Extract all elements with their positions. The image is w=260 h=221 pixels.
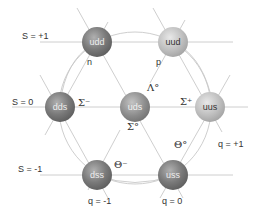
quark-content-uus: uus	[203, 102, 218, 112]
quark-content-uds: uds	[128, 102, 143, 112]
particle-name-p: p	[156, 58, 161, 67]
particle-sphere-udd: udd	[82, 27, 112, 57]
particle-name-sigma-plus: Σ⁺	[180, 97, 192, 107]
particle-name-lambda-0: Λ°	[147, 83, 159, 93]
particle-sphere-dss: dss	[82, 160, 112, 190]
particle-name-sigma-0: Σ°	[127, 122, 139, 132]
particle-sphere-uus: uus	[195, 92, 225, 122]
particle-sphere-uss: uss	[158, 160, 188, 190]
charge-label-plus1: q = +1	[218, 140, 244, 149]
quark-content-uud: uud	[165, 37, 180, 47]
quark-content-dss: dss	[90, 170, 104, 180]
particle-sphere-uds: uds	[120, 92, 150, 122]
particle-sphere-dds: dds	[45, 92, 75, 122]
strangeness-label-minus1: S = -1	[18, 165, 42, 174]
particle-name-sigma-minus: Σ⁻	[78, 98, 90, 108]
baryon-octet-diagram: S = +1 S = 0 S = -1 q = -1 q = 0 q = +1 …	[0, 0, 260, 221]
quark-content-uss: uss	[166, 170, 180, 180]
charge-label-minus1: q = -1	[88, 197, 111, 206]
quark-content-dds: dds	[53, 102, 68, 112]
particle-name-n: n	[87, 58, 92, 67]
strangeness-label-0: S = 0	[12, 98, 33, 107]
charge-label-0: q = 0	[162, 197, 182, 206]
particle-name-theta-0: Θ°	[174, 140, 187, 150]
quark-content-udd: udd	[89, 37, 104, 47]
strangeness-label-plus1: S = +1	[22, 32, 49, 41]
particle-name-theta-minus: Θ⁻	[114, 160, 127, 170]
particle-sphere-uud: uud	[158, 27, 188, 57]
